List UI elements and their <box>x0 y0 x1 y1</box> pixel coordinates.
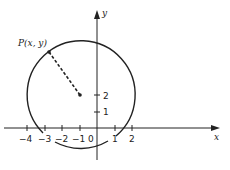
y-tick-label: 1 <box>103 107 109 117</box>
x-tick-label: −1 <box>72 134 85 144</box>
point-p-label: P(x, y) <box>17 38 47 48</box>
y-tick-label: 2 <box>103 91 109 101</box>
x-tick-label: −4 <box>19 134 33 144</box>
point-p <box>47 50 51 54</box>
circle <box>27 41 135 136</box>
y-axis-arrow-icon <box>94 10 100 19</box>
origin-label: 0 <box>88 134 94 144</box>
x-tick-label: 2 <box>129 134 135 144</box>
coordinate-diagram: −4 −3 −2 −1 0 1 2 1 2 y x P(x, y) <box>0 0 230 170</box>
x-axis-arrow-icon <box>211 125 220 131</box>
x-tick-label: −3 <box>38 134 51 144</box>
radius-segment <box>49 52 80 95</box>
center-point <box>78 93 82 97</box>
x-axis-label: x <box>214 132 219 142</box>
y-axis-label: y <box>101 8 108 18</box>
